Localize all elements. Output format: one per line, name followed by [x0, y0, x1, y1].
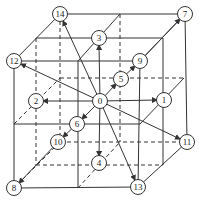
- node-12: 12: [6, 53, 22, 69]
- node-10: 10: [50, 134, 66, 150]
- node-1: 1: [156, 92, 172, 108]
- node-3: 3: [91, 30, 107, 46]
- node-6: 6: [69, 116, 85, 132]
- node-14: 14: [52, 6, 68, 22]
- node-0: 0: [92, 93, 108, 109]
- node-8: 8: [6, 180, 22, 196]
- node-13: 13: [130, 179, 146, 195]
- node-7: 7: [177, 6, 193, 22]
- node-5: 5: [113, 71, 129, 87]
- node-2: 2: [28, 93, 44, 109]
- node-9: 9: [132, 53, 148, 69]
- cube-lattice-diagram: 0 1 2 3 4 5 6 7 8 9 10 11 12 13 14: [0, 0, 199, 203]
- node-11: 11: [179, 134, 195, 150]
- node-4: 4: [91, 155, 107, 171]
